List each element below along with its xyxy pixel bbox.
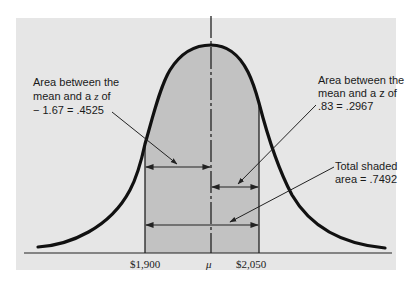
tick-label-1900: $1,900 bbox=[130, 258, 161, 270]
tick-label-2050: $2,050 bbox=[236, 258, 267, 270]
normal-distribution-diagram: Area between the mean and a z of − 1.67 … bbox=[0, 0, 420, 283]
total-annotation: Total shaded area = .7492 bbox=[335, 160, 400, 185]
tick-label-mean: μ bbox=[205, 258, 212, 270]
